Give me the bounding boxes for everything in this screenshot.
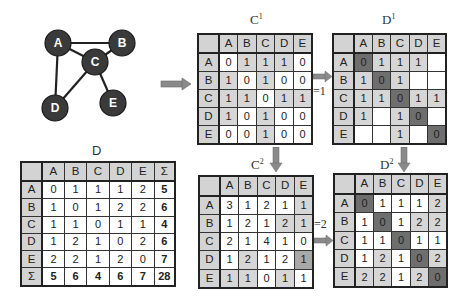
- arrow-right-graph-to-c1: [160, 77, 192, 91]
- cell: 2: [64, 251, 86, 268]
- cell: 2: [429, 250, 447, 268]
- col-header: B: [239, 176, 258, 196]
- cell: 1: [373, 231, 391, 249]
- cell: 1: [219, 72, 238, 90]
- row-header: E: [21, 251, 42, 268]
- cell: 1: [429, 231, 447, 249]
- cell: 1: [42, 199, 64, 216]
- cell: 1: [64, 181, 86, 199]
- d1-title: D1: [382, 12, 395, 28]
- col-header: D: [275, 34, 294, 53]
- cell: 2: [239, 251, 258, 269]
- col-sum: 6: [109, 268, 131, 286]
- cell: 0: [275, 125, 294, 144]
- eq1-label: =1: [313, 84, 326, 99]
- cell: 1: [410, 194, 428, 213]
- cell: 1: [87, 251, 109, 268]
- cell: 4: [257, 233, 276, 251]
- cell: 1: [256, 53, 275, 72]
- cell: 2: [132, 181, 154, 199]
- row-header: A: [199, 196, 220, 215]
- cell: 2: [276, 251, 295, 269]
- cell: 0: [293, 125, 312, 144]
- cell: 1: [354, 72, 372, 90]
- cell: 0: [293, 108, 312, 126]
- row-header: D: [198, 108, 219, 126]
- row-header: E: [334, 268, 355, 287]
- cell: 0: [238, 108, 257, 126]
- cell: [428, 72, 446, 90]
- graph-diagram: A B C D E: [0, 0, 160, 140]
- cell: [428, 108, 446, 126]
- cell: 1: [257, 215, 276, 233]
- cell: 1: [410, 231, 428, 249]
- sum-header: Σ: [154, 162, 175, 181]
- cell: 0: [392, 231, 410, 249]
- cell: 1: [391, 53, 409, 72]
- cell: 1: [392, 194, 410, 213]
- cell: 1: [257, 251, 276, 269]
- cell: 0: [294, 233, 313, 251]
- matrix-d2: A B C D E A 0 1 1 1 2 B 1 0 1 2 2 C 1 1 …: [333, 173, 448, 288]
- cell: 2: [109, 199, 131, 216]
- row-header: D: [199, 251, 220, 269]
- cell: 1: [219, 108, 238, 126]
- cell: 1: [392, 250, 410, 268]
- d1-title-sup: 1: [391, 12, 395, 21]
- col-header: A: [42, 162, 64, 181]
- cell: 0: [42, 181, 64, 199]
- node-c-label: C: [91, 55, 100, 69]
- cell: [354, 125, 372, 144]
- row-header: A: [21, 181, 42, 199]
- col-header: C: [391, 34, 409, 53]
- arrow-down-c1-to-c2: [269, 147, 283, 173]
- row-header: D: [333, 108, 354, 126]
- cell: 1: [428, 90, 446, 108]
- cell: 0: [372, 72, 390, 90]
- cell: 1: [293, 90, 312, 108]
- cell: 1: [87, 233, 109, 250]
- col-header: E: [429, 174, 447, 194]
- col-header: A: [220, 176, 239, 196]
- col-header: A: [219, 34, 238, 53]
- row-header: C: [21, 216, 42, 233]
- cell: 0: [354, 53, 372, 72]
- c1-title: C1: [250, 12, 263, 28]
- cell: 1: [391, 108, 409, 126]
- cell: [409, 72, 427, 90]
- cell: [428, 53, 446, 72]
- cell: 0: [132, 251, 154, 268]
- cell: 0: [256, 90, 275, 108]
- col-header: A: [355, 174, 373, 194]
- sum-row-header: Σ: [21, 268, 42, 286]
- cell: 1: [220, 215, 239, 233]
- col-header: D: [409, 34, 427, 53]
- cell: [372, 125, 390, 144]
- col-header: E: [428, 34, 446, 53]
- row-sum: 6: [154, 199, 175, 216]
- row-sum: 6: [154, 233, 175, 250]
- arrow-right-c2-to-d2: [314, 235, 334, 247]
- cell: 0: [355, 194, 373, 213]
- cell: 0: [409, 108, 427, 126]
- row-header: A: [333, 53, 354, 72]
- cell: 1: [355, 250, 373, 268]
- row-header: C: [333, 90, 354, 108]
- d2-title-text: D: [380, 157, 389, 172]
- row-header: B: [333, 72, 354, 90]
- matrix-c2: A B C D E A 3 1 2 1 1 B 1 2 1 2 1 C 2 1 …: [198, 175, 314, 289]
- cell: 2: [109, 251, 131, 268]
- matrix-c1: A B C D E A 0 1 1 1 0 B 1 0 1 0 0 C 1 1 …: [197, 33, 313, 145]
- col-sum: 5: [42, 268, 64, 286]
- cell: 2: [132, 233, 154, 250]
- col-header: B: [238, 34, 257, 53]
- cell: 1: [354, 108, 372, 126]
- row-sum: 5: [154, 181, 175, 199]
- corner-cell: [333, 34, 354, 53]
- col-header: B: [373, 174, 391, 194]
- row-header: C: [334, 231, 355, 249]
- cell: 1: [409, 53, 427, 72]
- cell: 1: [355, 213, 373, 231]
- arrow-right-c1-to-d1: [313, 71, 333, 83]
- cell: 1: [219, 90, 238, 108]
